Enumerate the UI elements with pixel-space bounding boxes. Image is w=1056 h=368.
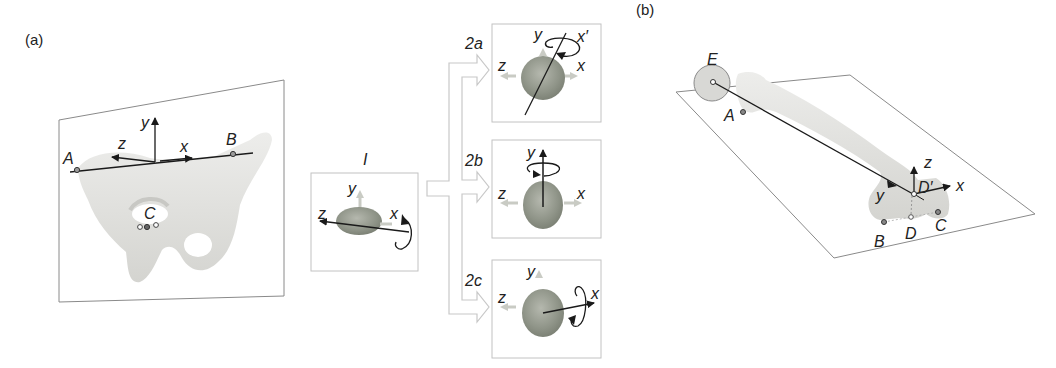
femur-label-A: A xyxy=(724,108,735,124)
landmark-D-point xyxy=(909,215,914,220)
step-2c-label: 2c xyxy=(465,273,482,289)
step2b-axis-z-label: z xyxy=(498,186,506,202)
landmark-B-point xyxy=(882,220,887,225)
landmark-D-prime-point xyxy=(912,192,917,197)
step2a-axis-x-label: x xyxy=(577,58,585,74)
femur-label-C: C xyxy=(935,218,947,234)
femur-label-B: B xyxy=(874,234,885,250)
femur-axis-x-label: x xyxy=(956,178,964,194)
step-2c-box xyxy=(492,260,601,358)
landmark-A-point xyxy=(741,110,746,115)
femur-axis-z-label: z xyxy=(924,155,932,171)
step-2a-label: 2a xyxy=(465,36,483,52)
femur-y-axis xyxy=(713,82,913,194)
femur-axis-y-label: y xyxy=(876,188,884,204)
pelvis-bone xyxy=(78,133,272,283)
step1-axis-z-label: z xyxy=(318,206,326,222)
landmark-B-point xyxy=(230,151,235,156)
step2c-axis-y-label: y xyxy=(527,264,535,280)
landmark-A-point xyxy=(74,167,79,172)
pelvis-axis-z-label: z xyxy=(118,136,126,152)
step-1-label: I xyxy=(363,152,367,168)
disc xyxy=(336,207,382,235)
step2b-axis-x-label: x xyxy=(577,186,585,202)
landmark-C-point xyxy=(936,210,941,215)
step1-axis-x-label: x xyxy=(390,206,398,222)
femur-label-D: D xyxy=(905,226,917,242)
step2a-axis-y-label: y xyxy=(534,27,542,43)
femur-label-E: E xyxy=(707,52,718,68)
pelvis-label-A: A xyxy=(63,151,74,167)
step2a-axis-z-label: z xyxy=(498,58,506,74)
panel-a-tag: (a) xyxy=(25,32,43,47)
pelvis-label-C: C xyxy=(144,206,156,222)
pelvis-obturator xyxy=(184,233,212,257)
panel-b-tag: (b) xyxy=(636,2,654,17)
landmark-E-point xyxy=(711,80,716,85)
step2c-axis-z-label: z xyxy=(498,290,506,306)
femur-illustration xyxy=(676,65,1035,258)
pelvis-axis-y-label: y xyxy=(141,115,149,131)
femur-bone xyxy=(736,72,949,220)
step2c-axis-x-label: x xyxy=(591,286,599,302)
step2b-axis-y-label: y xyxy=(527,145,535,161)
step2a-axis-x-prime-label: x′ xyxy=(577,29,588,45)
step1-axis-y-label: y xyxy=(348,181,356,197)
landmark-C-point xyxy=(144,224,149,229)
step-2b-label: 2b xyxy=(465,153,483,169)
femur-label-D-prime: D′ xyxy=(918,180,933,196)
pelvis-label-B: B xyxy=(226,132,237,148)
figure-canvas xyxy=(0,0,1056,368)
pelvis-illustration xyxy=(59,80,284,302)
femur-plane xyxy=(676,75,1035,258)
pelvis-axis-x-label: x xyxy=(180,139,188,155)
step-1-box xyxy=(311,173,418,271)
